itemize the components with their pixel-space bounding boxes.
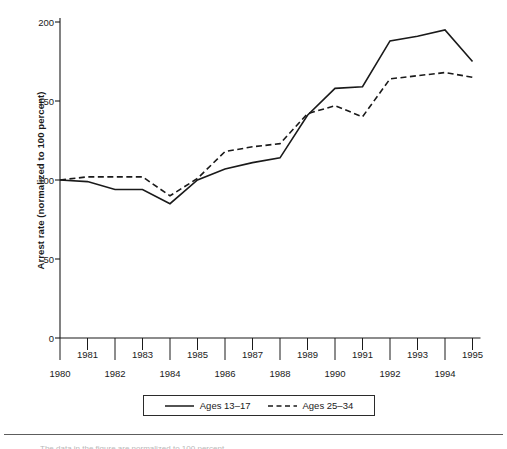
x-axis-tick-label-upper: 1989 xyxy=(297,349,318,360)
x-axis-tick-label-lower: 1986 xyxy=(214,368,235,379)
y-axis-tick-label: 200 xyxy=(18,17,54,28)
x-axis-tick-label-lower: 1984 xyxy=(159,368,180,379)
chart-legend: Ages 13–17 Ages 25–34 xyxy=(143,395,375,416)
x-axis-tick-label-lower: 1982 xyxy=(104,368,125,379)
x-axis-tick-label-upper: 1987 xyxy=(242,349,263,360)
x-axis-tick-label-upper: 1985 xyxy=(187,349,208,360)
plot-area: Arrest rate (normalized to 100 percent) … xyxy=(0,0,507,385)
legend-label-ages-13-17: Ages 13–17 xyxy=(200,400,251,411)
legend-swatch-dashed-icon xyxy=(268,402,297,410)
x-axis-tick-label-upper: 1991 xyxy=(352,349,373,360)
x-axis-tick-label-lower: 1988 xyxy=(269,368,290,379)
y-axis-tick-label: 0 xyxy=(18,333,54,344)
x-axis-tick-label-upper: 1981 xyxy=(77,349,98,360)
x-axis-tick-label-lower: 1994 xyxy=(434,368,455,379)
x-axis-tick-label-lower: 1990 xyxy=(324,368,345,379)
y-axis-tick-label: 50 xyxy=(18,254,54,265)
legend-entry-ages-13-17: Ages 13–17 xyxy=(165,400,251,411)
x-axis-tick-label-lower: 1980 xyxy=(49,368,70,379)
legend-entry-ages-25-34: Ages 25–34 xyxy=(268,400,354,411)
y-axis-tick-label: 150 xyxy=(18,96,54,107)
x-axis-tick-label-lower: 1992 xyxy=(379,368,400,379)
series-line-2 xyxy=(60,73,473,196)
legend-label-ages-25-34: Ages 25–34 xyxy=(303,400,354,411)
chart-canvas xyxy=(0,0,507,385)
cut-off-caption-text: The data in the figure are normalized to… xyxy=(40,440,360,449)
y-axis-tick-label: 100 xyxy=(18,175,54,186)
page-divider-rule xyxy=(4,434,503,435)
x-axis-tick-label-upper: 1993 xyxy=(407,349,428,360)
x-axis-tick-label-upper: 1983 xyxy=(132,349,153,360)
figure-line-chart: Arrest rate (normalized to 100 percent) … xyxy=(0,0,507,449)
legend-swatch-solid-icon xyxy=(165,402,194,410)
x-axis-tick-label-upper: 1995 xyxy=(462,349,483,360)
